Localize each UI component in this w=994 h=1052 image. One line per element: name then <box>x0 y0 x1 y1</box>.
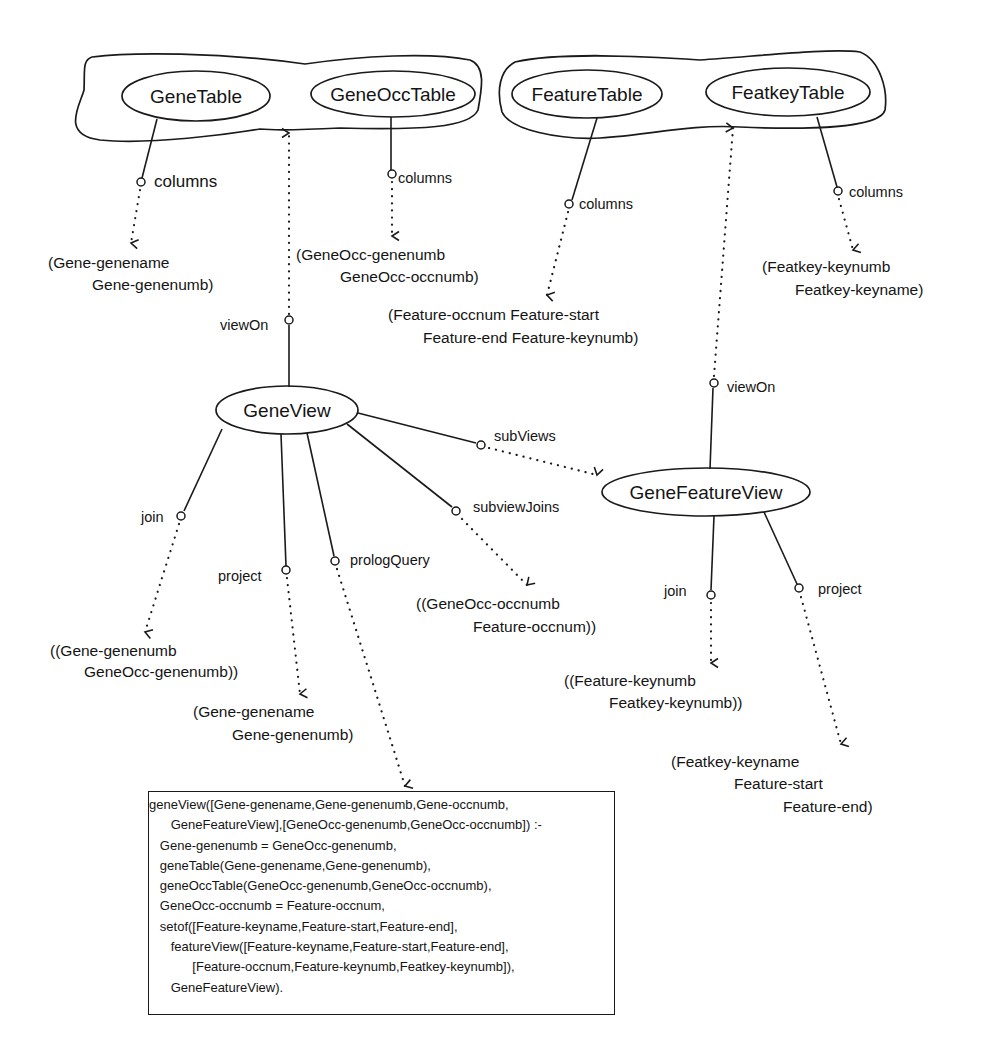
svg-text:GeneOcc-occnumb): GeneOcc-occnumb) <box>340 268 479 285</box>
svg-text:GeneOcc-genenumb)): GeneOcc-genenumb)) <box>84 663 238 680</box>
code-line: geneTable(Gene-genename,Gene-genenumb), <box>149 856 614 876</box>
gene-occ-table-node[interactable]: GeneOccTable <box>311 71 475 117</box>
gene-view-label: GeneView <box>243 400 331 421</box>
gene-view-node[interactable]: GeneView <box>216 386 358 434</box>
svg-text:((Feature-keynumb: ((Feature-keynumb <box>564 672 696 689</box>
svg-text:Feature-occnum)): Feature-occnum)) <box>473 618 596 635</box>
prolog-query-box: geneView([Gene-genename,Gene-genenumb,Ge… <box>148 791 615 1015</box>
port-circle-icon <box>565 200 573 208</box>
port-circle-icon <box>795 584 803 592</box>
feature-table-node[interactable]: FeatureTable <box>512 70 662 118</box>
code-line: geneView([Gene-genename,Gene-genenumb,Ge… <box>149 795 614 815</box>
edge-label: project <box>818 581 862 597</box>
gene-table-columns-edge: columns <box>131 119 217 243</box>
edge-label: subviewJoins <box>473 499 559 515</box>
edge-label: prologQuery <box>350 552 431 568</box>
code-line: geneOccTable(GeneOcc-genenumb,GeneOcc-oc… <box>149 876 614 896</box>
gene-occ-table-columns-value: (GeneOcc-genenumb GeneOcc-occnumb) <box>296 246 479 285</box>
svg-text:Gene-genenumb): Gene-genenumb) <box>232 726 354 743</box>
port-circle-icon <box>137 178 145 186</box>
edge-label: join <box>140 509 164 525</box>
svg-text:(Gene-genename: (Gene-genename <box>193 703 315 720</box>
code-line: GeneFeatureView],[GeneOcc-genenumb,GeneO… <box>149 815 614 835</box>
port-circle-icon <box>388 170 396 178</box>
edge-label: viewOn <box>220 317 268 333</box>
code-line: featureView([Feature-keyname,Feature-sta… <box>149 937 614 957</box>
gene-view-join-value: ((Gene-genenumb GeneOcc-genenumb)) <box>50 642 238 680</box>
feature-table-columns-value: (Feature-occnum Feature-start Feature-en… <box>388 306 638 346</box>
edge-label: subViews <box>494 428 556 444</box>
gene-feature-view-node[interactable]: GeneFeatureView <box>602 468 810 516</box>
gene-view-view-on-edge: viewOn <box>220 133 293 387</box>
gene-occ-table-columns-edge: columns <box>388 117 452 236</box>
port-circle-icon <box>285 316 293 324</box>
edge-label: project <box>218 568 262 584</box>
svg-text:(Gene-genename: (Gene-genename <box>48 254 170 271</box>
edge-label: columns <box>154 172 217 191</box>
code-line: GeneOcc-occnumb = Feature-occnum, <box>149 896 614 916</box>
edge-label: columns <box>398 170 452 186</box>
edge-label: join <box>663 583 687 599</box>
gene-view-sub-views-edge: subViews <box>358 413 597 475</box>
code-line: GeneFeatureView). <box>149 978 614 998</box>
svg-text:((GeneOcc-occnumb: ((GeneOcc-occnumb <box>416 595 560 612</box>
code-line: Gene-genenumb = GeneOcc-genenumb, <box>149 836 614 856</box>
gene-feature-view-project-value: (Featkey-keyname Feature-start Feature-e… <box>671 753 873 815</box>
featkey-table-columns-value: (Featkey-keynumb Featkey-keyname) <box>762 258 923 298</box>
port-circle-icon <box>177 512 185 520</box>
gene-view-subview-joins-value: ((GeneOcc-occnumb Feature-occnum)) <box>416 595 596 635</box>
gene-feature-view-join-edge: join <box>663 516 715 663</box>
featkey-table-label: FeatkeyTable <box>731 82 844 103</box>
gene-feature-view-view-on-edge: viewOn <box>710 128 775 469</box>
featkey-table-node[interactable]: FeatkeyTable <box>706 68 870 116</box>
svg-text:((Gene-genenumb: ((Gene-genenumb <box>50 642 177 659</box>
svg-text:(Featkey-keynumb: (Featkey-keynumb <box>762 258 890 275</box>
svg-text:(GeneOcc-genenumb: (GeneOcc-genenumb <box>296 246 445 263</box>
gene-feature-view-label: GeneFeatureView <box>630 482 783 503</box>
svg-text:(Feature-occnum Feature-start: (Feature-occnum Feature-start <box>388 306 600 323</box>
code-line: [Feature-occnum,Feature-keynumb,Featkey-… <box>149 957 614 977</box>
gene-table-columns-value: (Gene-genename Gene-genenumb) <box>48 254 214 293</box>
svg-text:Gene-genenumb): Gene-genenumb) <box>92 276 214 293</box>
edge-label: columns <box>849 184 903 200</box>
port-circle-icon <box>331 557 339 565</box>
port-circle-icon <box>834 187 842 195</box>
svg-text:Featkey-keynumb)): Featkey-keynumb)) <box>609 694 743 711</box>
gene-occ-table-label: GeneOccTable <box>330 84 456 105</box>
port-circle-icon <box>477 441 485 449</box>
feature-table-columns-edge: columns <box>547 118 633 295</box>
port-circle-icon <box>282 566 290 574</box>
port-circle-icon <box>710 379 718 387</box>
gene-table-label: GeneTable <box>150 86 242 107</box>
gene-tables-cluster: GeneTable GeneOccTable <box>75 54 481 141</box>
port-circle-icon <box>707 591 715 599</box>
feature-table-label: FeatureTable <box>532 84 643 105</box>
svg-text:(Featkey-keyname: (Featkey-keyname <box>671 753 799 770</box>
gene-view-project-edge: project <box>218 434 300 694</box>
edge-label: columns <box>579 196 633 212</box>
svg-text:Feature-start: Feature-start <box>734 775 823 792</box>
gene-view-project-value: (Gene-genename Gene-genenumb) <box>193 703 354 743</box>
gene-feature-view-join-value: ((Feature-keynumb Featkey-keynumb)) <box>564 672 743 711</box>
svg-text:Featkey-keyname): Featkey-keyname) <box>795 281 923 298</box>
featkey-table-columns-edge: columns <box>817 117 903 250</box>
gene-view-join-edge: join <box>140 429 222 632</box>
port-circle-icon <box>452 507 460 515</box>
svg-text:Feature-end): Feature-end) <box>783 798 873 815</box>
svg-text:Feature-end Feature-keynumb): Feature-end Feature-keynumb) <box>423 329 638 346</box>
edge-label: viewOn <box>727 379 775 395</box>
feature-tables-cluster: FeatureTable FeatkeyTable <box>499 51 885 138</box>
code-line: setof([Feature-keyname,Feature-start,Fea… <box>149 917 614 937</box>
gene-feature-view-project-edge: project <box>764 512 862 744</box>
gene-table-node[interactable]: GeneTable <box>122 71 270 121</box>
